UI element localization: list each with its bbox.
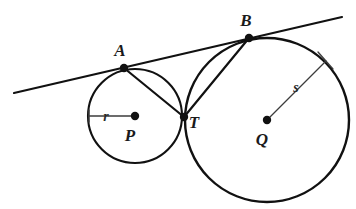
center-q-dot: [263, 116, 271, 124]
label-point-t: T: [189, 113, 200, 132]
label-radius-s: s: [292, 80, 299, 95]
label-radius-r: r: [103, 109, 109, 124]
label-point-b: B: [239, 11, 251, 30]
chord-b-to-t: [184, 38, 249, 117]
center-p-dot: [131, 112, 139, 120]
point-t-dot: [180, 113, 188, 121]
point-b-dot: [245, 34, 253, 42]
label-center-p: P: [124, 126, 136, 145]
label-point-a: A: [113, 41, 125, 60]
label-center-q: Q: [256, 130, 268, 149]
geometry-canvas: A B T P Q r s: [0, 0, 356, 209]
geometry-diagram: A B T P Q r s: [0, 0, 356, 209]
point-a-dot: [120, 64, 128, 72]
